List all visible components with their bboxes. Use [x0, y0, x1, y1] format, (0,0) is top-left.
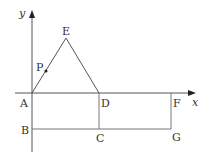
diagram-svg: y x E P A D F B C G: [0, 0, 209, 164]
label-C: C: [96, 132, 104, 145]
label-B: B: [21, 124, 29, 137]
label-F: F: [173, 97, 181, 110]
point-P-marker: [45, 70, 48, 73]
y-axis-arrow-icon: [29, 10, 35, 18]
label-D: D: [101, 97, 110, 110]
x-axis-label: x: [192, 96, 199, 109]
label-E: E: [62, 25, 70, 38]
label-G: G: [172, 131, 181, 144]
geometry-diagram: y x E P A D F B C G: [0, 0, 209, 164]
label-A: A: [19, 97, 29, 110]
segment-ED: [66, 38, 99, 93]
label-P: P: [36, 61, 44, 74]
y-axis-label: y: [18, 7, 26, 20]
